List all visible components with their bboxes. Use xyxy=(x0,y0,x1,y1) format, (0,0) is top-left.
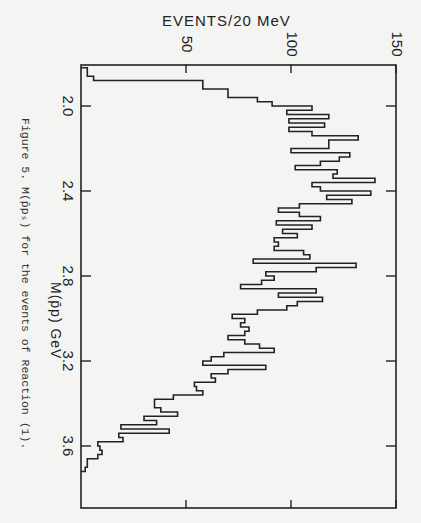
axis-ticks xyxy=(81,65,396,508)
svg-text:3.2: 3.2 xyxy=(60,351,77,372)
plot-frame xyxy=(81,65,396,508)
svg-text:2.4: 2.4 xyxy=(60,181,77,202)
tick-labels: 501001502.02.42.83.23.6 xyxy=(60,31,406,456)
svg-text:150: 150 xyxy=(389,31,406,56)
histogram-outline xyxy=(81,68,375,472)
histogram-chart: 501001502.02.42.83.23.6 xyxy=(0,0,421,523)
svg-text:50: 50 xyxy=(179,36,196,53)
svg-text:2.8: 2.8 xyxy=(60,266,77,287)
svg-text:100: 100 xyxy=(284,31,301,56)
svg-text:2.0: 2.0 xyxy=(60,96,77,117)
svg-text:3.6: 3.6 xyxy=(60,436,77,457)
